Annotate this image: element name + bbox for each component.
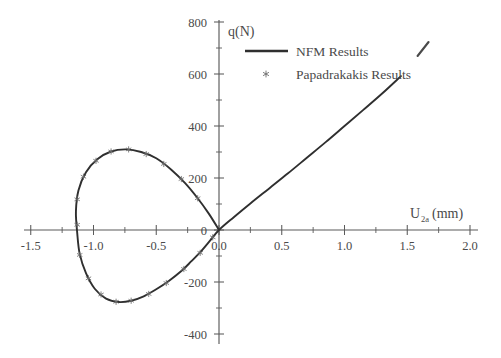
nfm-results-curve [76,76,401,302]
x-tick-label: -1.0 [84,239,104,253]
y-axis-title: q(N) [228,24,255,40]
y-tick-label-group: -400-2000200400600800 [184,16,207,342]
x-tick-label: 2.0 [462,239,478,253]
x-axis-title-unit: (mm) [432,206,463,222]
y-tick-label: -400 [184,328,207,342]
x-tick-label: 1.0 [337,239,353,253]
y-tick-label: 0 [201,224,207,238]
x-axis-title-base: U [410,206,420,221]
y-tick-label: 200 [188,172,207,186]
x-tick-label: -1.5 [21,239,41,253]
artifact-stroke [418,42,429,56]
legend-star-swatch [263,71,269,78]
scan-artifact [418,42,429,56]
legend: NFM Results Papadrakakis Results [245,44,411,82]
x-tick-label: 0.5 [274,239,290,253]
y-tick-label: 400 [188,120,207,134]
y-tick-label: -200 [184,276,207,290]
y-tick-label: 800 [188,16,207,30]
x-tick-label: -0.5 [146,239,166,253]
x-axis-title: U 2a (mm) [410,206,463,224]
legend-label-nfm: NFM Results [296,44,368,59]
x-axis-title-subscript: 2a [421,214,429,224]
x-tick-label-group: -1.5-1.0-0.50.00.51.01.52.0 [21,239,478,253]
x-tick-label: 0.0 [211,239,227,253]
legend-label-papadrakakis: Papadrakakis Results [296,67,411,82]
chart-figure: -1.5-1.0-0.50.00.51.01.52.0 -400-2000200… [0,0,501,358]
load-displacement-plot: -1.5-1.0-0.50.00.51.01.52.0 -400-2000200… [0,0,501,358]
x-tick-label: 1.5 [399,239,415,253]
y-tick-label: 600 [188,68,207,82]
